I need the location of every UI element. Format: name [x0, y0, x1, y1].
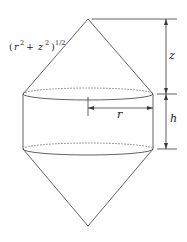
- r-left-arrow-icon: [88, 106, 94, 110]
- h-top-arrow-icon: [164, 94, 168, 100]
- cone-cylinder-diagram: r z h ( r 2 + z 2 ) 1/2: [0, 0, 187, 242]
- formula-z: z: [37, 41, 44, 52]
- h-label: h: [170, 112, 177, 125]
- cylinder-top-ellipse-back: [23, 88, 153, 94]
- z-top-arrow-icon: [164, 19, 168, 25]
- r-right-arrow-icon: [147, 106, 153, 110]
- h-bottom-arrow-icon: [164, 143, 168, 149]
- cylinder-bottom-ellipse-front: [23, 149, 153, 155]
- formula-plus: +: [26, 41, 34, 52]
- cylinder-bottom-ellipse-back: [23, 143, 153, 149]
- z-bottom-arrow-icon: [164, 88, 168, 94]
- formula-open-paren: (: [9, 41, 13, 52]
- bottom-cone-left-edge: [23, 149, 88, 226]
- top-cone-right-edge: [88, 19, 153, 94]
- formula-outer-exponent: 1/2: [55, 39, 65, 47]
- formula-r-exponent: 2: [20, 39, 24, 47]
- r-label: r: [117, 108, 123, 121]
- z-label: z: [168, 49, 175, 62]
- formula-z-exponent: 2: [45, 39, 49, 47]
- top-cone-left-edge: [23, 19, 88, 94]
- bottom-cone-right-edge: [88, 149, 153, 226]
- slant-height-formula: ( r 2 + z 2 ) 1/2: [9, 39, 65, 52]
